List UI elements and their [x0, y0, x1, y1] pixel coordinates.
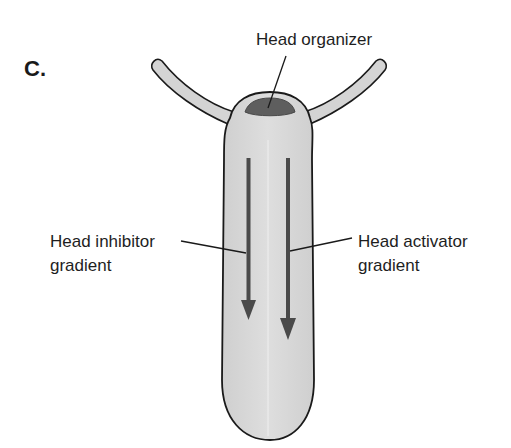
head-activator-label: Head activator	[358, 232, 468, 251]
head-inhibitor-label: Head inhibitor	[50, 232, 155, 251]
head-activator-label-line2: gradient	[358, 256, 420, 275]
panel-label: C.	[24, 56, 46, 81]
hydra-diagram: C. Head organizer Head inhibitor gradien…	[0, 0, 511, 448]
left-tentacle	[152, 59, 234, 124]
right-tentacle	[304, 59, 386, 124]
head-inhibitor-label-line2: gradient	[50, 256, 112, 275]
head-organizer-label: Head organizer	[256, 30, 373, 49]
